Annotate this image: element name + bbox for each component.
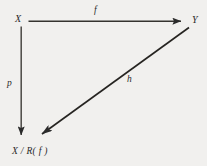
node-label-quotient: X / R( f ) bbox=[12, 147, 48, 157]
commutative-diagram: X Y X / R( f ) f p h bbox=[0, 0, 207, 166]
arrow-label-p: p bbox=[7, 79, 12, 89]
diagram-canvas bbox=[0, 0, 207, 166]
node-label-x: X bbox=[15, 14, 21, 24]
arrow-label-h: h bbox=[127, 75, 132, 85]
node-label-y: Y bbox=[192, 15, 198, 25]
arrow-h-line bbox=[42, 28, 189, 135]
arrow-label-f: f bbox=[94, 6, 97, 16]
